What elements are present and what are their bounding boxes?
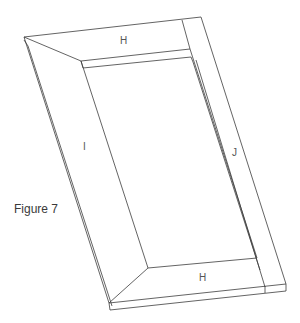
top-rail-bevel [24,37,190,61]
left-stile-inner-edge [81,61,148,268]
bottom-rail-miter [109,268,148,303]
right-stile-inner-edge [182,20,190,49]
label-left-stile: I [83,141,86,152]
bottom-rail-inner-edge [148,258,257,268]
right-stile-inner-lip-c [196,60,265,287]
figure-caption: Figure 7 [14,202,58,216]
right-stile-inner-lip-b [191,57,260,270]
left-stile-thickness-edge [24,40,112,306]
label-bottom-rail: H [199,272,206,283]
label-right-stile: J [232,147,237,158]
right-stile-outer-edge [201,17,286,291]
outer-top-edge [24,17,201,37]
left-bottom-corner [109,303,110,310]
frame-diagram: H I J H [0,0,300,323]
left-stile-outer-edge [24,37,109,303]
label-top-rail: H [120,35,127,46]
bottom-rail-front-bottom [110,291,286,310]
